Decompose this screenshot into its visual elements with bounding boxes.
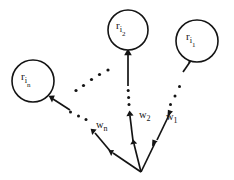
ellipsis-vertical-w2 bbox=[127, 89, 131, 106]
arrowhead-w2-upper bbox=[126, 111, 133, 117]
node-circle-r-i-1[interactable] bbox=[176, 20, 218, 62]
diagram-root: rin ri2 ri1 wn w2 w1 bbox=[0, 0, 234, 180]
ellipsis-dot bbox=[178, 85, 181, 88]
edge-segment-wn-upper bbox=[95, 133, 111, 152]
edge-segment-into-node-r-i-n bbox=[53, 99, 70, 110]
node-circle-r-i-2[interactable] bbox=[108, 10, 148, 50]
ellipsis-diagonal-w1 bbox=[169, 85, 181, 106]
ellipsis-dot bbox=[85, 118, 88, 121]
ellipsis-dot bbox=[127, 89, 130, 92]
ellipsis-dot bbox=[69, 111, 72, 114]
node-label-sub-sub: 2 bbox=[122, 30, 126, 38]
ellipsis-diagonal-center bbox=[74, 68, 109, 92]
diagram-canvas: rin ri2 ri1 wn w2 w1 bbox=[0, 0, 234, 180]
edge-segment-w2-stub bbox=[130, 116, 133, 141]
node-label-sub-sub: n bbox=[27, 81, 31, 89]
edge-segment-origin-to-w1 bbox=[141, 143, 155, 172]
node-circle-r-i-n[interactable] bbox=[12, 60, 54, 102]
ellipsis-horizontal-wn bbox=[69, 111, 88, 122]
node-label-sub-sub: 1 bbox=[192, 41, 196, 49]
weight-label-w-2: w2 bbox=[139, 109, 151, 123]
weight-label-sub: 2 bbox=[147, 114, 151, 123]
ellipsis-dot bbox=[74, 89, 77, 92]
ellipsis-dot bbox=[128, 103, 131, 106]
weight-label-sub: n bbox=[104, 124, 108, 133]
ellipsis-dot bbox=[169, 103, 172, 106]
ellipsis-dot bbox=[90, 78, 93, 81]
ellipsis-dot bbox=[77, 115, 80, 118]
edge-to-node-r-i-n bbox=[49, 95, 141, 172]
ellipsis-dot bbox=[82, 84, 85, 87]
weight-label-w-n: wn bbox=[96, 119, 108, 133]
weight-label-w-1: w1 bbox=[166, 111, 178, 125]
weight-label-sub: 1 bbox=[174, 116, 178, 125]
ellipsis-dot bbox=[98, 73, 101, 76]
ellipsis-dot bbox=[174, 95, 177, 98]
ellipsis-dot bbox=[127, 96, 130, 99]
ellipsis-dot bbox=[106, 68, 109, 71]
